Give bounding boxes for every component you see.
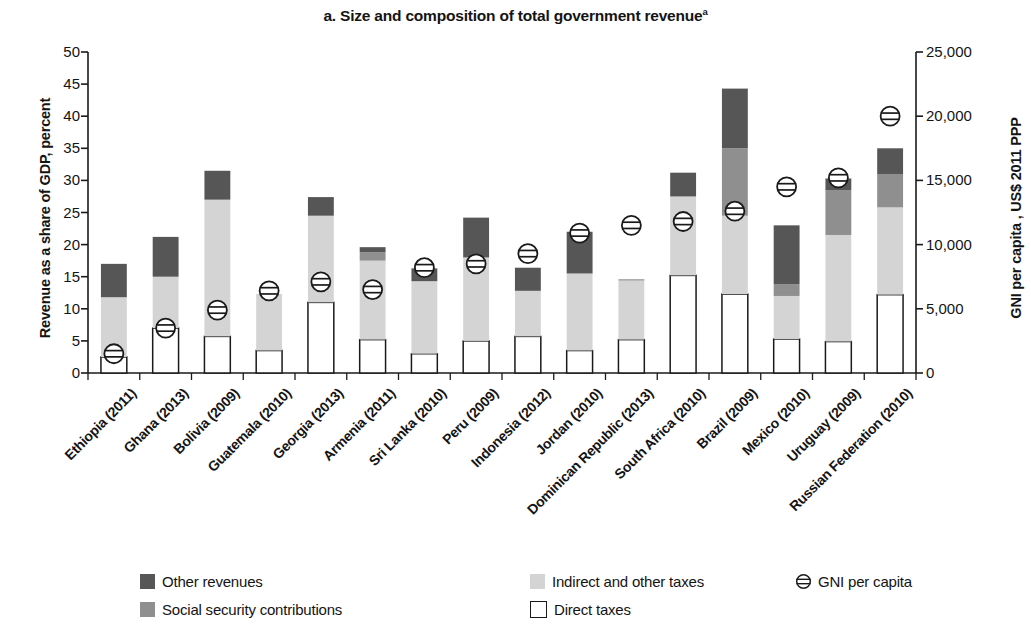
gni-marker[interactable] xyxy=(104,344,123,363)
legend-item[interactable]: Indirect and other taxes xyxy=(530,573,704,590)
gni-marker[interactable] xyxy=(881,107,900,126)
gni-marker-circle xyxy=(829,168,848,187)
gni-marker[interactable] xyxy=(570,224,589,243)
y-tick-label-right: 0 xyxy=(926,365,934,380)
bar-segment-other-revenues[interactable] xyxy=(204,171,230,200)
bar-segment-indirect-and-other-taxes[interactable] xyxy=(256,294,282,350)
bar-segment-social-security-contributions[interactable] xyxy=(360,252,386,260)
chart-legend: Other revenuesIndirect and other taxesGN… xyxy=(140,568,900,626)
bar-group[interactable] xyxy=(774,225,800,373)
gni-marker[interactable] xyxy=(156,319,175,338)
bar-segment-other-revenues[interactable] xyxy=(360,247,386,252)
gni-marker[interactable] xyxy=(518,244,537,263)
legend-label: Social security contributions xyxy=(162,601,342,618)
bar-group[interactable] xyxy=(360,247,386,373)
bar-segment-indirect-and-other-taxes[interactable] xyxy=(825,235,851,342)
bar-group[interactable] xyxy=(153,237,179,373)
bar-segment-other-revenues[interactable] xyxy=(101,264,127,297)
y-axis-left-ticks: 05101520253035404550 xyxy=(22,52,80,373)
chart-title-superscript: a xyxy=(703,6,708,17)
bar-group[interactable] xyxy=(463,218,489,373)
chart-title: a. Size and composition of total governm… xyxy=(0,6,1031,25)
bar-group[interactable] xyxy=(618,279,644,373)
bar-segment-other-revenues[interactable] xyxy=(877,148,903,174)
bar-segment-direct-taxes[interactable] xyxy=(774,339,800,373)
gni-marker[interactable] xyxy=(725,202,744,221)
bar-segment-direct-taxes[interactable] xyxy=(360,340,386,373)
bar-segment-direct-taxes[interactable] xyxy=(722,294,748,373)
bar-segment-social-security-contributions[interactable] xyxy=(774,284,800,296)
gni-marker[interactable] xyxy=(260,281,279,300)
bar-group[interactable] xyxy=(411,268,437,373)
gni-marker[interactable] xyxy=(311,272,330,291)
bar-segment-direct-taxes[interactable] xyxy=(463,341,489,373)
gni-marker-circle xyxy=(311,272,330,291)
gni-marker-circle xyxy=(725,202,744,221)
bar-segment-indirect-and-other-taxes[interactable] xyxy=(567,273,593,350)
bar-segment-other-revenues[interactable] xyxy=(153,237,179,277)
bar-segment-indirect-and-other-taxes[interactable] xyxy=(360,261,386,340)
bar-segment-other-revenues[interactable] xyxy=(308,197,334,216)
y-tick-label-left: 10 xyxy=(63,301,80,316)
bar-segment-other-revenues[interactable] xyxy=(515,268,541,291)
chart-figure: a. Size and composition of total governm… xyxy=(0,0,1031,634)
y-tick-label-left: 50 xyxy=(63,44,80,59)
bar-segment-other-revenues[interactable] xyxy=(774,225,800,284)
bar-segment-indirect-and-other-taxes[interactable] xyxy=(670,196,696,275)
bar-segment-indirect-and-other-taxes[interactable] xyxy=(515,291,541,337)
bar-segment-indirect-and-other-taxes[interactable] xyxy=(722,216,748,294)
gni-marker[interactable] xyxy=(622,216,641,235)
bar-segment-direct-taxes[interactable] xyxy=(618,340,644,373)
gni-marker-circle xyxy=(622,216,641,235)
bar-group[interactable] xyxy=(567,232,593,373)
gni-marker[interactable] xyxy=(363,280,382,299)
bar-segment-indirect-and-other-taxes[interactable] xyxy=(877,207,903,294)
bar-group[interactable] xyxy=(825,178,851,373)
gni-marker[interactable] xyxy=(829,168,848,187)
legend-label: Other revenues xyxy=(162,573,263,590)
bar-segment-direct-taxes[interactable] xyxy=(825,342,851,373)
legend-item[interactable]: Social security contributions xyxy=(140,601,342,618)
gni-marker-circle xyxy=(674,212,693,231)
gni-per-capita-marker-icon xyxy=(795,573,812,590)
gni-marker[interactable] xyxy=(208,301,227,320)
bar-segment-direct-taxes[interactable] xyxy=(204,336,230,373)
bar-segment-social-security-contributions[interactable] xyxy=(618,279,644,280)
bar-group[interactable] xyxy=(722,89,748,373)
bar-segment-other-revenues[interactable] xyxy=(722,89,748,149)
bar-group[interactable] xyxy=(515,268,541,373)
legend-item[interactable]: Direct taxes xyxy=(530,601,631,618)
bar-group[interactable] xyxy=(670,173,696,373)
bar-segment-other-revenues[interactable] xyxy=(463,218,489,258)
legend-swatch-icon xyxy=(530,601,547,618)
x-axis-category-labels: Ethiopia (2011)Ghana (2013)Bolivia (2009… xyxy=(88,373,916,563)
bar-segment-indirect-and-other-taxes[interactable] xyxy=(411,281,437,354)
y-tick-label-right: 10,000 xyxy=(926,237,972,252)
bar-segment-direct-taxes[interactable] xyxy=(877,295,903,373)
plot-area xyxy=(88,52,916,373)
bar-group[interactable] xyxy=(256,294,282,373)
bar-group[interactable] xyxy=(877,148,903,373)
legend-label: Direct taxes xyxy=(554,601,631,618)
bar-group[interactable] xyxy=(204,171,230,373)
gni-marker-circle xyxy=(104,344,123,363)
bar-segment-direct-taxes[interactable] xyxy=(670,275,696,373)
bar-segment-indirect-and-other-taxes[interactable] xyxy=(618,281,644,340)
bar-segment-indirect-and-other-taxes[interactable] xyxy=(774,296,800,339)
gni-marker[interactable] xyxy=(415,258,434,277)
bar-segment-other-revenues[interactable] xyxy=(670,173,696,197)
bar-segment-direct-taxes[interactable] xyxy=(256,351,282,373)
bar-segment-direct-taxes[interactable] xyxy=(411,354,437,373)
gni-marker[interactable] xyxy=(777,177,796,196)
gni-marker-circle xyxy=(260,281,279,300)
legend-item[interactable]: Other revenues xyxy=(140,573,263,590)
gni-marker[interactable] xyxy=(674,212,693,231)
bar-segment-direct-taxes[interactable] xyxy=(567,351,593,373)
bar-segment-social-security-contributions[interactable] xyxy=(877,174,903,207)
legend-item[interactable]: GNI per capita xyxy=(795,573,912,590)
bar-segment-social-security-contributions[interactable] xyxy=(825,190,851,235)
bar-segment-direct-taxes[interactable] xyxy=(515,336,541,373)
y-tick-label-left: 15 xyxy=(63,269,80,284)
bar-segment-direct-taxes[interactable] xyxy=(308,302,334,373)
gni-marker[interactable] xyxy=(467,254,486,273)
